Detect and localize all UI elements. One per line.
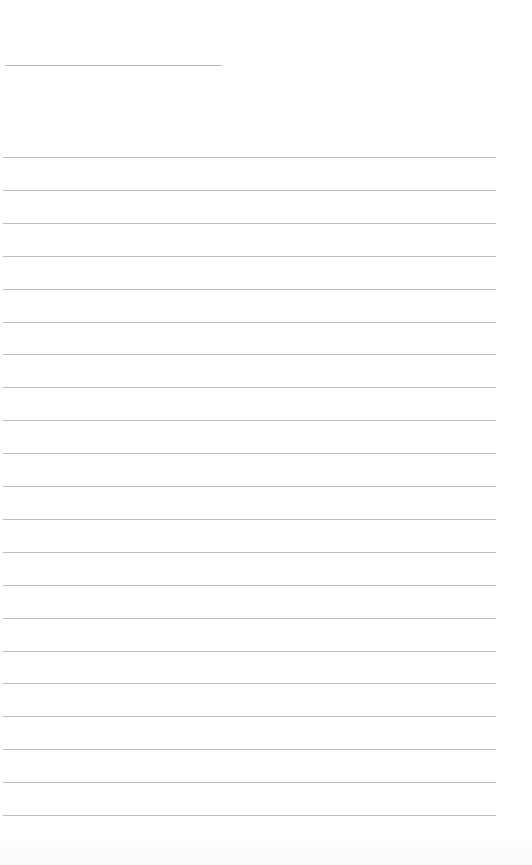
- ruled-line: [3, 552, 496, 553]
- ruled-line: [3, 354, 496, 355]
- ruled-line: [3, 223, 496, 224]
- ruled-line: [3, 749, 496, 750]
- ruled-line: [3, 815, 496, 816]
- ruled-line: [3, 256, 496, 257]
- ruled-line: [3, 387, 496, 388]
- ruled-line: [3, 585, 496, 586]
- ruled-line: [3, 782, 496, 783]
- ruled-line: [3, 618, 496, 619]
- title-line: [5, 65, 222, 66]
- ruled-line: [3, 420, 496, 421]
- ruled-line: [3, 289, 496, 290]
- bottom-edge: [0, 835, 532, 865]
- ruled-page: [0, 0, 532, 865]
- ruled-line: [3, 716, 496, 717]
- ruled-line: [3, 322, 496, 323]
- ruled-line: [3, 651, 496, 652]
- ruled-line: [3, 519, 496, 520]
- ruled-line: [3, 486, 496, 487]
- ruled-line: [3, 453, 496, 454]
- ruled-line: [3, 157, 496, 158]
- ruled-line: [3, 683, 496, 684]
- ruled-line: [3, 190, 496, 191]
